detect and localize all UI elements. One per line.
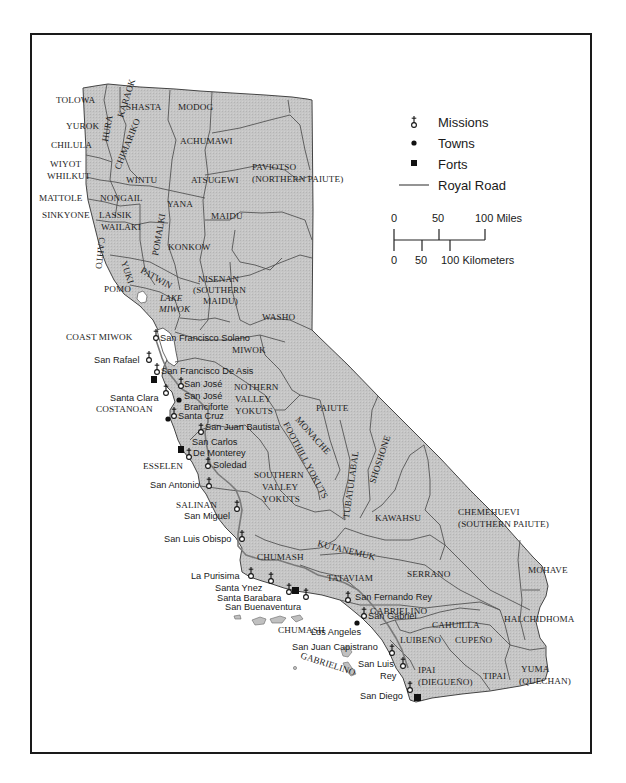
place-san-juan-bautista: San Juan Bautista: [205, 422, 280, 432]
tribe-yuma-1: YUMA: [521, 664, 550, 674]
tribe-shasta: SHASTA: [126, 102, 162, 112]
town-icon: [411, 140, 416, 145]
tribe-mohave: MOHAVE: [528, 565, 568, 575]
tribe-konkow: KONKOW: [168, 242, 211, 252]
tribe-nisenan-3: MAIDU): [203, 296, 238, 306]
tribe-whilkut: WHILKUT: [47, 171, 91, 181]
mission-icon: [304, 588, 309, 599]
legend: Missions Towns Forts Royal Road: [399, 115, 506, 193]
tribe-achumawi: ACHUMAWI: [180, 136, 233, 146]
tribe-nisenan-2: (SOUTHERN: [193, 285, 246, 295]
tribe-nisenan-1: NISENAN: [198, 274, 239, 284]
tribe-ipai-1: IPAI: [418, 665, 435, 675]
tribe-miwok: MIWOK: [232, 345, 266, 355]
tribe-lake-miwok-2: MIWOK: [158, 304, 191, 314]
place-san-fernando-rey: San Fernando Rey: [355, 592, 433, 602]
tribe-coast-miwok: COAST MIWOK: [66, 332, 133, 342]
tribe-wailaki: WAILAKI: [101, 222, 141, 232]
place-san-gabriel: San Gabriel: [368, 611, 417, 621]
tribe-modoc: MODOG: [178, 102, 213, 112]
tribe-yuma-2: (QUECHAN): [519, 676, 571, 686]
legend-item-royal-road: Royal Road: [399, 178, 506, 193]
tribe-salinan: SALINAN: [176, 500, 217, 510]
place-soledad: Soledad: [213, 460, 247, 470]
mission-icon: [154, 329, 159, 340]
tribe-halchidhoma: HALCHIDHOMA: [504, 614, 575, 624]
tribe-ipai-2: (DIEGUEÑO): [418, 677, 473, 687]
tribe-mattole: MATTOLE: [39, 193, 83, 203]
place-sf-solano: San Francisco Solano: [160, 333, 250, 343]
mission-icon: [147, 351, 152, 362]
place-santa-clara: Santa Clara: [110, 393, 159, 403]
legend-item-missions: Missions: [412, 115, 489, 130]
fort-icon: [151, 376, 157, 383]
place-san-luis-rey-2: Rey: [380, 671, 397, 681]
tribe-costanoan: COSTANOAN: [96, 404, 153, 414]
tribe-paviotso-1: PAVIOTSO: [252, 162, 296, 172]
tribe-yurok: YUROK: [66, 121, 99, 131]
town-icon: [176, 397, 181, 402]
legend-item-forts: Forts: [411, 157, 468, 172]
scale-km-end: 100 Kilometers: [441, 254, 515, 266]
tribe-chemehuevi-2: (SOUTHERN PAIUTE): [458, 519, 549, 529]
place-san-antonio: San Antonio: [150, 480, 200, 490]
scale-miles-zero: 0: [391, 212, 397, 224]
tribe-pomo: POMO: [104, 284, 131, 294]
fort-icon: [411, 160, 417, 166]
california-mission-map: TOLOWA KARAOK HURA SHASTA MODOG YUROK CH…: [0, 0, 626, 783]
fort-icon: [414, 694, 421, 701]
scale-km-mid: 50: [415, 254, 427, 266]
tribe-maidu: MAIDU: [211, 211, 243, 221]
legend-label-missions: Missions: [438, 115, 489, 130]
legend-label-forts: Forts: [438, 157, 468, 172]
scale-miles-end: 100 Miles: [475, 212, 523, 224]
place-san-rafael: San Rafael: [94, 355, 139, 365]
tribe-paviotso-2: (NORTHERN PAIUTE): [252, 174, 343, 184]
mission-icon: [412, 116, 417, 127]
tribe-southern-valley-yokuts-1: SOUTHERN: [254, 470, 304, 480]
place-san-jose-mission: San José: [184, 379, 222, 389]
place-san-diego: San Diego: [360, 691, 403, 701]
town-icon: [165, 416, 170, 421]
tribe-northern-valley-yokuts-3: YOKUTS: [235, 406, 273, 416]
tribe-lassik: LASSIK: [99, 210, 132, 220]
tribe-cupeno: CUPEÑO: [455, 635, 493, 645]
tribe-tataviam: TATAVIAM: [327, 573, 373, 583]
tribe-chumash: CHUMASH: [257, 552, 304, 562]
tribe-sinkyone: SINKYONE: [42, 210, 90, 220]
tribe-kawaiisu: KAWAHSU: [375, 513, 421, 523]
tribe-luiseno: LUIBEÑO: [400, 635, 441, 645]
fort-icon: [178, 446, 184, 453]
place-la-purisima: La Purisima: [191, 571, 240, 581]
tribe-tipai: TIPAI: [483, 671, 506, 681]
town-icon: [354, 620, 359, 625]
tribe-esselen: ESSELEN: [143, 461, 183, 471]
legend-label-royal-road: Royal Road: [438, 178, 506, 193]
tribe-cahuilla: CAHUILLA: [432, 620, 480, 630]
legend-item-towns: Towns: [411, 136, 475, 151]
tribe-washo: WASHO: [262, 312, 295, 322]
tribe-chemehuevi-1: CHEMEHUEVI: [458, 507, 520, 517]
tribe-yana: YANA: [167, 199, 193, 209]
place-santa-cruz: Santa Cruz: [178, 411, 224, 421]
scale-bar: 0 50 100 Miles 0 50 100 Kilometers: [391, 212, 523, 266]
mission-icon: [155, 363, 160, 374]
tribe-southern-valley-yokuts-3: YOKUTS: [262, 494, 300, 504]
place-san-miguel: San Miguel: [184, 511, 230, 521]
tribe-wintu: WINTU: [126, 175, 157, 185]
tribe-paiute: PAIUTE: [316, 403, 349, 413]
scale-miles-mid: 50: [432, 212, 444, 224]
place-san-luis-rey-1: San Luis: [358, 659, 394, 669]
tribe-northern-valley-yokuts-1: NOTHERN: [234, 382, 279, 392]
place-santa-ynez: Santa Ynez: [215, 583, 263, 593]
mission-icon: [164, 384, 169, 395]
scale-km-zero: 0: [391, 254, 397, 266]
place-san-luis-obispo: San Luis Obispo: [164, 534, 231, 544]
tribe-nongail: NONGAIL: [100, 193, 143, 203]
tribe-southern-valley-yokuts-2: VALLEY: [262, 482, 298, 492]
tribe-northern-valley-yokuts-2: VALLEY: [235, 394, 271, 404]
legend-label-towns: Towns: [438, 136, 475, 151]
place-san-carlos-2: De Monterey: [193, 448, 246, 458]
place-sf-de-asis: San Francisco De Asis: [161, 366, 254, 376]
place-san-juan-capistrano: San Juan Capistrano: [292, 642, 378, 652]
